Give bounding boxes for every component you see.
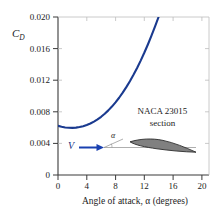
y-axis-ticks-inner	[58, 49, 62, 144]
y-axis-title-sub: D	[19, 33, 24, 42]
x-tick-label: 4	[77, 182, 97, 191]
y-tick-label: 0.016	[18, 45, 50, 54]
section-annotation-line1: NACA 23015	[125, 107, 200, 116]
y-axis-title: CD	[12, 28, 25, 42]
velocity-arrow-icon	[79, 144, 104, 151]
y-tick-label: 0.008	[18, 108, 50, 117]
y-tick-label: 0.020	[18, 13, 50, 22]
y-axis-ticks-right	[205, 49, 209, 144]
y-tick-label: 0.004	[18, 139, 50, 148]
x-tick-label: 12	[134, 182, 154, 191]
y-tick-label: 0	[18, 171, 50, 180]
airfoil-schematic	[104, 139, 196, 152]
x-axis-ticks	[58, 175, 202, 180]
x-axis-ticks-top	[87, 17, 202, 21]
x-axis-title: Angle of attack, α (degrees)	[50, 197, 220, 207]
x-tick-label: 8	[106, 182, 126, 191]
y-axis-ticks	[53, 17, 58, 175]
angle-of-attack-symbol: α	[111, 132, 115, 140]
y-tick-label: 0.012	[18, 76, 50, 85]
velocity-label: V	[68, 141, 74, 151]
section-annotation-line2: section	[125, 119, 200, 128]
x-tick-label: 16	[163, 182, 183, 191]
x-tick-label: 20	[192, 182, 212, 191]
x-tick-label: 0	[48, 182, 68, 191]
